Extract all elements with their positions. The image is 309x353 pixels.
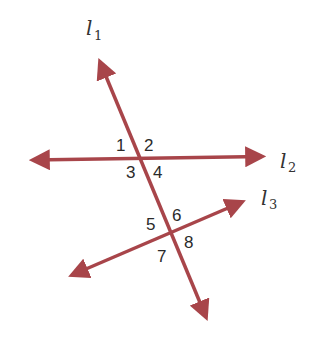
angle-label-3: 3 (126, 163, 135, 182)
angle-label-2: 2 (144, 136, 153, 155)
label-l1: l 1 (86, 16, 102, 43)
svg-text:2: 2 (288, 160, 296, 175)
angle-label-4: 4 (153, 163, 162, 182)
label-l2: l 2 (280, 149, 296, 175)
svg-text:l: l (261, 186, 267, 210)
angle-label-6: 6 (172, 206, 181, 225)
line-l1-transversal (100, 62, 206, 317)
transversal-diagram: l 1 l 2 l 3 1 2 3 4 5 6 7 8 (0, 0, 309, 353)
svg-text:1: 1 (94, 28, 102, 43)
angle-label-8: 8 (184, 233, 193, 252)
label-l3: l 3 (261, 186, 277, 212)
svg-text:l: l (280, 149, 286, 173)
svg-text:l: l (86, 16, 92, 40)
angle-label-5: 5 (146, 215, 155, 234)
angle-label-7: 7 (157, 247, 166, 266)
svg-text:3: 3 (269, 197, 277, 212)
line-l2 (33, 157, 262, 161)
angle-label-1: 1 (116, 136, 125, 155)
